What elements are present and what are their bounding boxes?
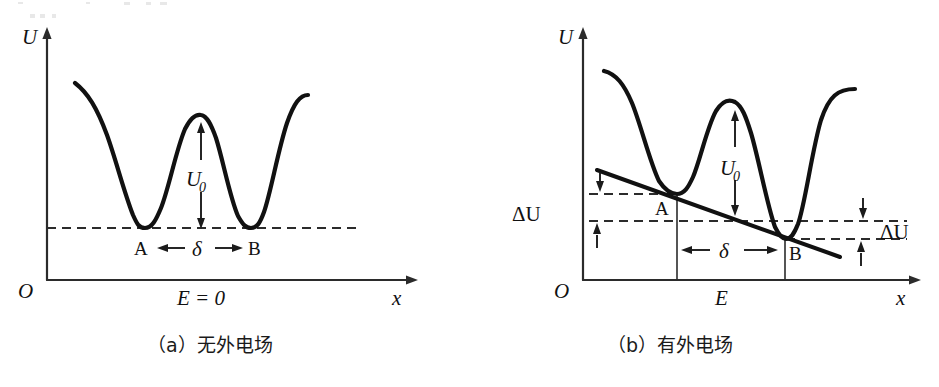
panel-b-spacing-arrowhead-right xyxy=(767,246,778,254)
panel-b-delta-left-arrowhead-up xyxy=(593,223,601,234)
panel-a-field-label: E = 0 xyxy=(176,286,225,310)
panel-b-delta-right: ΔU xyxy=(857,198,909,266)
panel-b-y-axis xyxy=(578,27,587,280)
panel-b-field-label: E xyxy=(714,286,728,310)
figure-canvas: U O x U 0 A B δ xyxy=(0,0,939,387)
panel-a-barrier-label-sub: 0 xyxy=(199,180,206,195)
panel-b-y-axis-label: U xyxy=(558,25,575,49)
x-axis-arrowhead xyxy=(406,275,418,284)
panel-b-spacing-label: δ xyxy=(719,239,730,263)
panel-a-origin-label: O xyxy=(18,279,33,303)
scan-artifacts xyxy=(18,2,167,18)
panel-b-y-axis-arrowhead xyxy=(578,27,587,39)
panel-b-potential-curve xyxy=(604,71,855,239)
panel-a-caption: （a）无外电场 xyxy=(147,334,273,356)
panel-b-x-axis-label: x xyxy=(895,286,906,310)
panel-b-barrier-arrowhead-down xyxy=(731,205,739,216)
panel-a-well-left-label: A xyxy=(134,238,148,259)
panel-b-well-left-label: A xyxy=(655,198,669,219)
panel-a: U O x U 0 A B δ xyxy=(18,25,418,356)
panel-b-delta-right-label: ΔU xyxy=(880,220,909,244)
panel-b-delta-left: ΔU xyxy=(512,172,604,248)
panel-b-origin-label: O xyxy=(554,279,569,303)
panel-b-well-right-label: B xyxy=(789,243,802,264)
panel-b-x-axis xyxy=(583,275,921,284)
panel-a-x-axis-label: x xyxy=(391,286,402,310)
panel-b: U O x U 0 A B xyxy=(512,25,921,356)
panel-b-caption: （b）有外电场 xyxy=(607,334,733,356)
panel-b-delta-right-arrowhead-up xyxy=(857,241,865,252)
panel-a-well-right-label: B xyxy=(248,238,261,259)
panel-a-spacing-label: δ xyxy=(192,237,203,261)
panel-b-barrier-arrowhead-up xyxy=(731,110,739,121)
panel-a-spacing-arrowhead-left xyxy=(157,244,168,252)
panel-b-delta-right-arrowhead-down xyxy=(859,208,867,219)
panel-a-potential-curve xyxy=(75,83,308,228)
panel-b-delta-left-arrowhead-down xyxy=(596,181,604,192)
panel-a-spacing-arrowhead-right xyxy=(232,244,243,252)
panel-a-y-axis-label: U xyxy=(22,25,39,49)
panel-b-barrier-label-sub: 0 xyxy=(733,169,740,184)
panel-b-delta-left-label: ΔU xyxy=(512,202,541,226)
panel-b-spacing-arrowhead-left xyxy=(681,246,692,254)
panel-a-barrier-arrowhead-up xyxy=(197,122,205,133)
panel-a-y-axis xyxy=(42,27,51,280)
potential-energy-figure: U O x U 0 A B δ xyxy=(0,0,939,387)
panel-b-x-axis-arrowhead xyxy=(909,275,921,284)
panel-a-x-axis xyxy=(47,275,418,284)
y-axis-arrowhead xyxy=(42,27,51,39)
